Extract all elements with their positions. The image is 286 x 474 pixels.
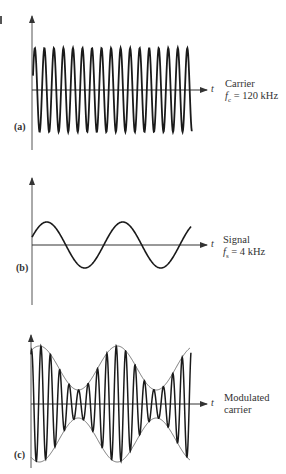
carrier-label: Carrier fc = 120 kHz	[225, 78, 278, 106]
panel-c-time-axis-label: t	[211, 397, 214, 408]
signal-label: Signal fs = 4 kHz	[223, 234, 265, 262]
panel-a-time-axis-label: t	[211, 83, 214, 94]
signal-title: Signal	[223, 234, 265, 246]
modulated-title: Modulated	[224, 392, 270, 404]
carrier-frequency: fc = 120 kHz	[225, 90, 278, 106]
panel-a-tag: (a)	[14, 121, 26, 132]
panel-b-tag: (b)	[16, 262, 28, 273]
carrier-title: Carrier	[225, 78, 278, 90]
signal-frequency: fs = 4 kHz	[223, 246, 265, 262]
panel-b-time-axis-label: t	[211, 238, 214, 249]
modulated-title-line2: carrier	[224, 404, 270, 416]
panel-c-tag: (c)	[14, 449, 25, 460]
modulated-carrier-label: Modulated carrier	[224, 392, 270, 416]
envelope-upper	[31, 346, 190, 390]
